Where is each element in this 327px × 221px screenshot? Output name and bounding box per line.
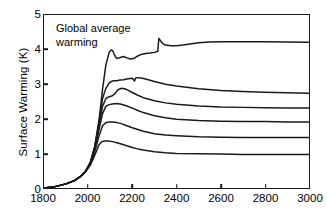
y-tick-mark bbox=[43, 153, 48, 155]
y-tick-mark bbox=[43, 48, 48, 50]
y-tick-mark bbox=[43, 118, 48, 120]
y-axis-title: Surface Warming (K) bbox=[17, 17, 29, 187]
x-tick-label: 2800 bbox=[253, 192, 279, 204]
x-tick-label: 2200 bbox=[119, 192, 145, 204]
series-line bbox=[44, 39, 309, 188]
x-tick-label: 2400 bbox=[164, 192, 190, 204]
x-tick-mark bbox=[265, 184, 267, 189]
x-tick-mark bbox=[220, 184, 222, 189]
y-tick-mark bbox=[43, 83, 48, 85]
y-tick-label: 1 bbox=[33, 148, 41, 160]
y-tick-label: 2 bbox=[33, 113, 41, 125]
x-tick-label: 2600 bbox=[208, 192, 234, 204]
y-tick-label: 4 bbox=[33, 43, 41, 55]
y-tick-label: 5 bbox=[33, 8, 41, 20]
x-tick-mark bbox=[131, 184, 133, 189]
y-tick-label: 3 bbox=[33, 78, 41, 90]
chart-annotation: Global average warming bbox=[56, 22, 131, 49]
x-tick-label: 1800 bbox=[30, 192, 56, 204]
x-tick-mark bbox=[87, 184, 89, 189]
series-line bbox=[44, 141, 309, 188]
x-tick-label: 2000 bbox=[75, 192, 101, 204]
series-line bbox=[44, 78, 309, 188]
x-tick-label: 3000 bbox=[297, 192, 323, 204]
chart-figure: Surface Warming (K) Global average warmi… bbox=[0, 0, 327, 221]
x-tick-mark bbox=[176, 184, 178, 189]
series-line bbox=[44, 104, 309, 188]
